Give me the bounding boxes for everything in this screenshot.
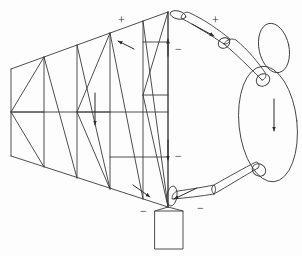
truss-diagonal-u3 (143, 12, 168, 95)
base-rect (155, 211, 183, 249)
upper-arm-force-arrow (192, 24, 214, 36)
sign-minus-upper-mast: − (175, 43, 182, 55)
truss-diagonal-l2 (77, 112, 110, 189)
crane-base (155, 207, 183, 249)
head-ellipse (254, 20, 294, 75)
truss-bottom-chord (11, 156, 168, 207)
top-chord-force-arrow (118, 41, 134, 49)
sign-plus-top-right: + (212, 14, 219, 26)
crane-boom-truss (11, 12, 168, 207)
sign-minus-lower-mast: − (175, 150, 182, 162)
truss-diagonal-u2 (77, 33, 110, 112)
human-figure (166, 9, 302, 206)
truss-diagonal-u1 (11, 57, 44, 112)
upper-arm-segment (224, 39, 266, 80)
truss-long-diagonal-2 (77, 45, 110, 189)
diagram-canvas: + + − − − − (0, 0, 302, 256)
hand-grip-icon (169, 9, 186, 21)
truss-fan-line-1 (143, 21, 168, 207)
torso-ellipse (233, 63, 302, 184)
sign-plus-top-left: + (118, 14, 125, 26)
truss-diagonal-l1 (11, 112, 44, 167)
forearm-segment (181, 12, 230, 44)
base-left-leg (155, 207, 168, 211)
sign-minus-base-left: − (140, 205, 147, 217)
truss-top-chord (11, 12, 168, 69)
bottom-chord-force-arrow (133, 185, 150, 197)
sign-minus-base-right: − (197, 202, 204, 214)
base-right-leg (168, 207, 183, 211)
diagram-svg (0, 0, 302, 256)
truss-long-diagonal-1 (44, 57, 77, 178)
